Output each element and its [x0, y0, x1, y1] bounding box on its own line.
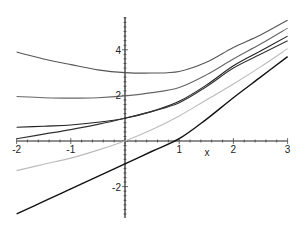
curve-3-line [17, 36, 288, 127]
x-tick-label: 2 [231, 144, 237, 155]
y-tick-label: 2 [115, 90, 121, 101]
axes [17, 17, 288, 218]
curve-1-line [17, 20, 288, 73]
plot-area: -2-112342-2x [0, 0, 306, 233]
curve-5-line [17, 49, 288, 171]
axis-labels: -2-112342-2x [12, 45, 291, 193]
x-tick-label: 3 [285, 144, 291, 155]
curve-6-line [17, 57, 288, 214]
y-tick-label: -2 [112, 182, 121, 193]
x-axis-label: x [205, 147, 210, 158]
curve-4-line [17, 41, 288, 139]
solution-curves [17, 20, 288, 214]
y-tick-label: 4 [115, 45, 121, 56]
x-tick-label: 1 [176, 144, 182, 155]
x-tick-label: -1 [66, 144, 75, 155]
x-tick-label: -2 [12, 144, 21, 155]
